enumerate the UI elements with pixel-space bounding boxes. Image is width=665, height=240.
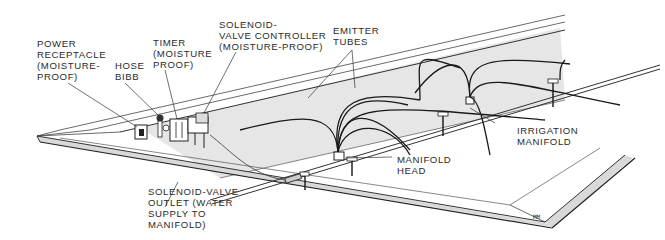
label-solenoid-valve-outlet: SOLENOID-VALVE OUTLET (WATER SUPPLY TO M… [148,186,239,230]
timer [170,119,188,141]
label-manifold-head: MANIFOLD HEAD [397,154,451,176]
label-hose-bibb: HOSE BIBB [115,60,145,82]
label-emitter-tubes: EMITTER TUBES [333,25,379,47]
label-solenoid-valve-controller: SOLENOID- VALVE CONTROLLER (MOISTURE-PRO… [219,19,326,52]
label-irrigation-manifold: IRRIGATION MANIFOLD [517,125,578,147]
label-timer: TIMER (MOISTURE PROOF) [153,37,212,70]
artist-signature: MM [533,213,540,220]
label-power-receptacle: POWER RECEPTACLE (MOISTURE- PROOF) [37,38,106,82]
